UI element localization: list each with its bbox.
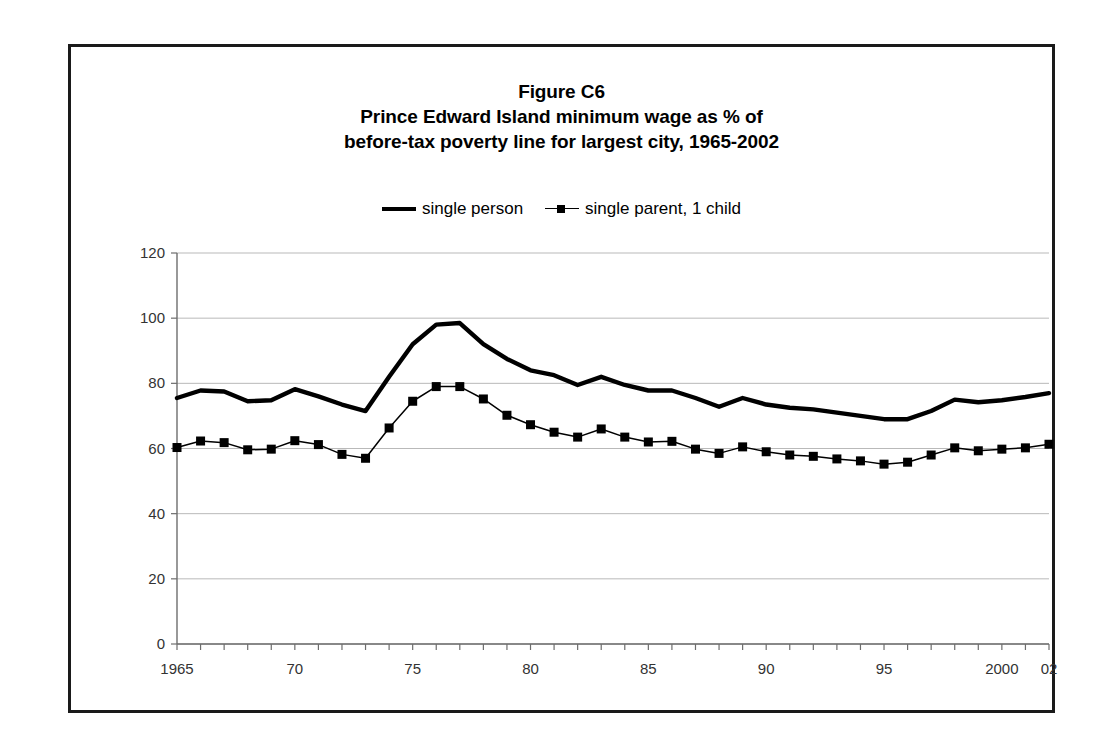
series-marker-single-parent bbox=[243, 445, 252, 454]
y-tick-label: 120 bbox=[140, 244, 165, 261]
y-tick-label: 20 bbox=[148, 570, 165, 587]
series-marker-single-parent bbox=[620, 433, 629, 442]
series-marker-single-parent bbox=[715, 449, 724, 458]
y-tick-label: 0 bbox=[157, 635, 165, 652]
series-marker-single-parent bbox=[314, 440, 323, 449]
series-marker-single-parent bbox=[903, 458, 912, 467]
series-marker-single-parent bbox=[361, 454, 370, 463]
series-marker-single-parent bbox=[597, 424, 606, 433]
series-marker-single-parent bbox=[809, 452, 818, 461]
series-marker-single-parent bbox=[479, 394, 488, 403]
series-marker-single-parent bbox=[267, 445, 276, 454]
series-marker-single-parent bbox=[502, 411, 511, 420]
y-tick-label: 100 bbox=[140, 309, 165, 326]
series-marker-single-parent bbox=[196, 437, 205, 446]
series-marker-single-parent bbox=[856, 456, 865, 465]
series-marker-single-parent bbox=[997, 445, 1006, 454]
series-marker-single-parent bbox=[408, 397, 417, 406]
series-marker-single-parent bbox=[526, 420, 535, 429]
series-line-single-parent bbox=[177, 387, 1049, 465]
series-marker-single-parent bbox=[950, 443, 959, 452]
series-marker-single-parent bbox=[667, 437, 676, 446]
x-tick-label: 80 bbox=[522, 660, 539, 677]
series-marker-single-parent bbox=[385, 423, 394, 432]
series-marker-single-parent bbox=[691, 445, 700, 454]
x-tick-label: 2000 bbox=[985, 660, 1018, 677]
series-marker-single-parent bbox=[455, 382, 464, 391]
series-marker-single-parent bbox=[762, 447, 771, 456]
series-marker-single-parent bbox=[573, 433, 582, 442]
y-tick-label: 60 bbox=[148, 440, 165, 457]
series-marker-single-parent bbox=[173, 443, 182, 452]
x-tick-label: 1965 bbox=[160, 660, 193, 677]
series-marker-single-parent bbox=[290, 436, 299, 445]
y-tick-label: 80 bbox=[148, 374, 165, 391]
series-marker-single-parent bbox=[337, 450, 346, 459]
series-marker-single-parent bbox=[974, 446, 983, 455]
series-marker-single-parent bbox=[832, 454, 841, 463]
x-tick-label: 85 bbox=[640, 660, 657, 677]
x-tick-label: 90 bbox=[758, 660, 775, 677]
plot-area: 0204060801001201965707580859095200002 bbox=[71, 47, 1052, 710]
series-marker-single-parent bbox=[1021, 443, 1030, 452]
series-marker-single-parent bbox=[432, 382, 441, 391]
series-marker-single-parent bbox=[927, 451, 936, 460]
series-marker-single-parent bbox=[880, 460, 889, 469]
series-line-single-person bbox=[177, 323, 1049, 419]
series-marker-single-parent bbox=[220, 438, 229, 447]
series-marker-single-parent bbox=[738, 442, 747, 451]
chart-canvas: 0204060801001201965707580859095200002 bbox=[71, 47, 1058, 716]
x-tick-label: 75 bbox=[404, 660, 421, 677]
figure-frame: Figure C6 Prince Edward Island minimum w… bbox=[68, 44, 1055, 713]
series-marker-single-parent bbox=[550, 428, 559, 437]
series-marker-single-parent bbox=[644, 437, 653, 446]
x-tick-label: 70 bbox=[286, 660, 303, 677]
x-tick-label: 02 bbox=[1041, 660, 1058, 677]
series-marker-single-parent bbox=[1045, 440, 1054, 449]
series-marker-single-parent bbox=[785, 451, 794, 460]
y-tick-label: 40 bbox=[148, 505, 165, 522]
x-tick-label: 95 bbox=[876, 660, 893, 677]
